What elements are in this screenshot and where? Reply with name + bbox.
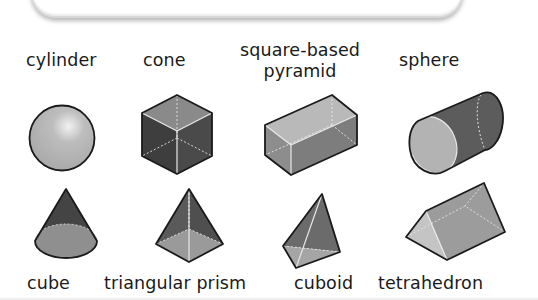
label-cone[interactable]: cone [143,50,186,71]
tetrahedron-shape[interactable] [280,190,350,272]
label-triangular-prism[interactable]: triangular prism [104,273,246,294]
cuboid-shape[interactable] [262,92,362,178]
square-based-pyramid-shape[interactable] [152,186,228,266]
label-square-based-pyramid[interactable]: square-based pyramid [230,40,370,82]
cone-shape[interactable] [30,186,102,266]
cube-shape[interactable] [136,92,218,178]
sphere-shape[interactable] [24,100,100,176]
cylinder-shape[interactable] [405,90,507,178]
label-tetrahedron[interactable]: tetrahedron [378,273,483,294]
triangular-prism-shape[interactable] [396,180,508,264]
label-cube[interactable]: cube [27,273,70,294]
instruction-frame [30,0,464,18]
label-cylinder[interactable]: cylinder [26,50,97,71]
label-line-2: pyramid [230,61,370,82]
label-sphere[interactable]: sphere [399,50,459,71]
label-line-1: square-based [230,40,370,61]
label-cuboid[interactable]: cuboid [294,273,353,294]
